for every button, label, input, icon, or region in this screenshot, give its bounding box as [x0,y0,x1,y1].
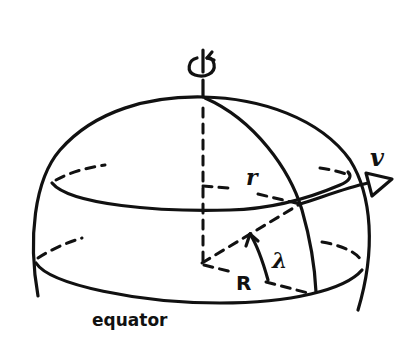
latitude-angle-label: λ [271,247,287,273]
small-radius-label: r [246,164,259,190]
velocity-label: v [370,143,385,172]
sphere-radius-label: R [236,271,251,295]
latitude-circle-back [56,165,105,180]
velocity-arrowhead [366,173,392,196]
equator-radius [204,265,312,294]
latitude-circle-front [52,172,350,210]
latitude-circle-back-right [320,168,348,175]
sphere-outline [33,97,369,310]
rotating-sphere-diagram: r v R λ equator [0,0,414,353]
rotation-arrow-icon [189,50,214,76]
equator-circle-back-right [322,242,362,262]
equator-circle-back [38,238,82,258]
equator-label: equator [92,310,168,330]
